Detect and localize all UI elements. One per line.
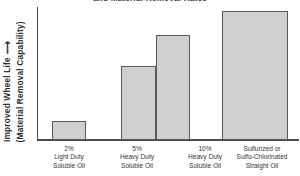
y-axis-line xyxy=(37,7,38,140)
category-1-line-2: Light Duty xyxy=(36,153,102,161)
category-4-line-2: Sulfo-Chlorinated xyxy=(226,153,298,161)
arrow-right-icon: ⟶ xyxy=(3,41,12,57)
category-2-line-1: 5% xyxy=(103,145,171,153)
category-2-line-2: Heavy Duty xyxy=(103,153,171,161)
category-2-line-3: Soluble Oil xyxy=(103,162,171,170)
x-axis-category-label-1: 2% Light Duty Soluble Oil xyxy=(36,145,102,170)
x-axis-category-label-4: Sulfurized or Sulfo-Chlorinated Straight… xyxy=(226,145,298,170)
y-axis-label-line-2: (Material Removal Capability) xyxy=(16,21,24,142)
y-axis-label-line-1-text: Improved Wheel Life xyxy=(2,57,12,142)
bar-5-percent-heavy-duty-soluble-oil xyxy=(121,66,156,140)
bar-chart: and Material Removal Rates Improved Whee… xyxy=(0,0,300,176)
category-1-line-3: Soluble Oil xyxy=(36,162,102,170)
category-4-line-3: Straight Oil xyxy=(226,162,298,170)
category-4-line-1: Sulfurized or xyxy=(226,145,298,153)
bar-2-percent-light-duty-soluble-oil xyxy=(52,121,86,140)
chart-title: and Material Removal Rates xyxy=(0,0,300,3)
category-1-line-1: 2% xyxy=(36,145,102,153)
y-axis-label-group: Improved Wheel Life⟶ (Material Removal C… xyxy=(0,6,30,142)
bar-10-percent-heavy-duty-soluble-oil xyxy=(156,35,190,140)
y-axis-label-line-1: Improved Wheel Life⟶ xyxy=(3,41,12,142)
x-axis-category-label-2: 5% Heavy Duty Soluble Oil xyxy=(103,145,171,170)
bar-sulfurized-sulfo-chlorinated-straight-oil xyxy=(222,11,288,140)
